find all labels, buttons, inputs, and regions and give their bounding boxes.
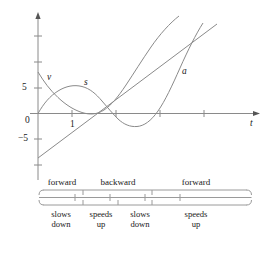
t-axis-group (30, 110, 260, 117)
speed-band-label-3-line1: slows (130, 209, 150, 219)
y-axis-label-0: 0 (25, 116, 30, 126)
velocity-position-acceleration-figure: 5 0 −5 1 t v s a forward backward forwar… (0, 0, 268, 258)
direction-band-label-3: forward (172, 178, 220, 187)
speed-band-label-2-line2: up (97, 219, 106, 229)
direction-brace-right-end (247, 190, 252, 195)
direction-band-label-2: backward (92, 178, 144, 187)
curve-a (38, 24, 217, 158)
y-axis-label-minus-5: −5 (18, 134, 28, 144)
y-axis-arrow (35, 12, 40, 19)
speed-brace-left-end (39, 200, 44, 205)
speed-band-label-2-line1: speeds (90, 209, 113, 219)
speed-band-label-3: slows down (119, 210, 161, 229)
curve-label-v: v (47, 73, 51, 83)
t-axis-arrow (253, 111, 260, 116)
speed-brace-right-end (247, 200, 252, 205)
curve-s (38, 23, 203, 127)
speed-band-label-1: slows down (40, 210, 82, 229)
y-axis-group (34, 12, 42, 180)
speed-band-label-4-line2: up (192, 219, 201, 229)
speed-band-label-4-line1: speeds (185, 209, 208, 219)
speed-band-label-2: speeds up (80, 210, 122, 229)
curves-group (38, 16, 217, 158)
speed-band-label-1-line1: slows (51, 209, 71, 219)
direction-band-label-1: forward (40, 178, 84, 187)
speed-band-label-1-line2: down (51, 219, 70, 229)
curve-v (38, 16, 179, 114)
curve-label-s: s (84, 78, 88, 88)
curve-label-a: a (182, 67, 187, 77)
band-middle-group (39, 194, 252, 201)
speed-band-label-4: speeds up (172, 210, 220, 229)
t-axis-label-1: 1 (70, 120, 75, 130)
y-axis-label-5: 5 (22, 83, 27, 93)
t-axis-name: t (250, 119, 253, 129)
speed-band-label-3-line2: down (130, 219, 149, 229)
direction-brace-left-end (39, 190, 44, 195)
